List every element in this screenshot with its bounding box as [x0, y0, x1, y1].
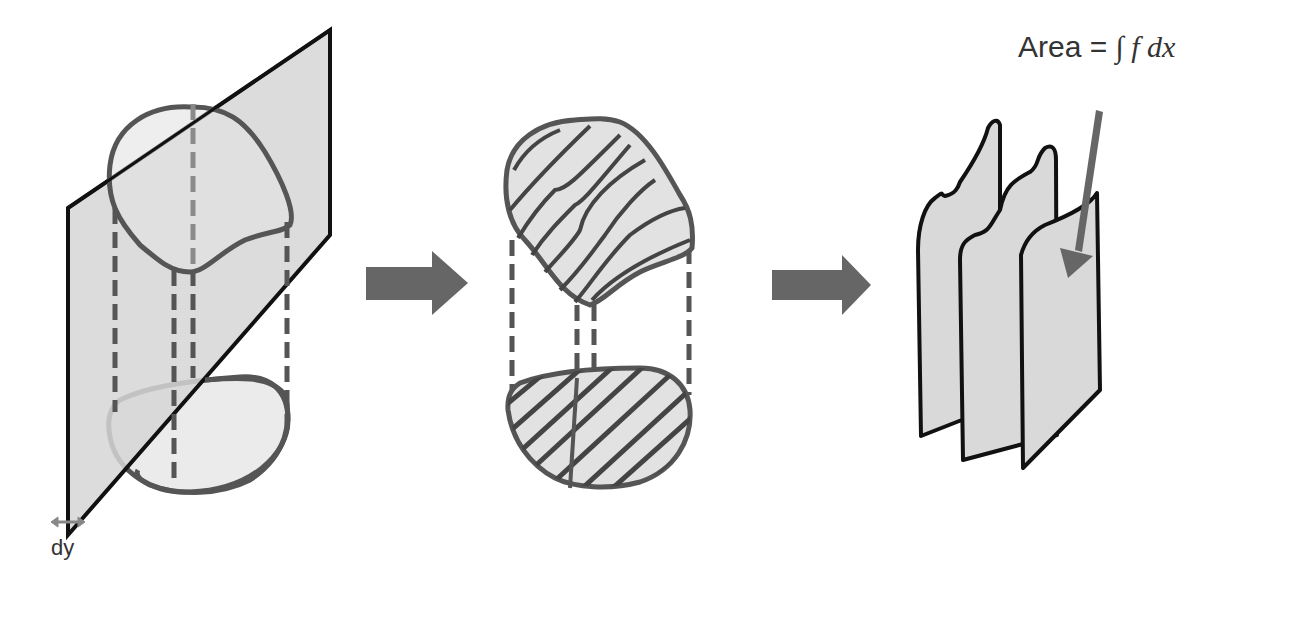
slice-front	[1021, 193, 1100, 468]
arrow-right-icon-1	[366, 251, 468, 315]
panel-stacked-slices	[918, 110, 1103, 468]
area-formula-prefix: Area =	[1018, 30, 1116, 63]
area-formula-label: Area = ∫ f dx	[1018, 30, 1175, 64]
diagram-canvas: dy Area = ∫ f dx	[0, 0, 1305, 618]
panel-slicing-plane	[51, 30, 330, 535]
arrow-right-icon-2	[772, 255, 871, 315]
dy-label: dy	[51, 535, 74, 561]
area-formula-integral: ∫ f dx	[1116, 30, 1176, 63]
panel-hatched-cross-sections	[500, 118, 700, 495]
